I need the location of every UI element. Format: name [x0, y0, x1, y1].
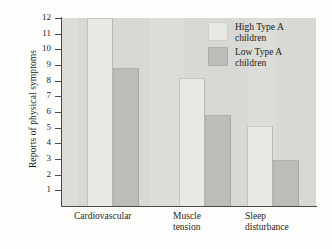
y-axis-tick: [55, 128, 62, 129]
x-axis-line: [61, 206, 317, 207]
y-axis-tick-label: 3: [30, 154, 51, 163]
y-axis-tick: [55, 49, 62, 50]
y-axis-tick-label: 7: [30, 91, 51, 100]
y-axis-tick: [55, 65, 62, 66]
high-type-a-swatch: [208, 22, 228, 41]
bar-chart-figure: Reports of physical symptoms 12345678910…: [0, 0, 332, 249]
legend-item-label: Low Type A children: [235, 47, 282, 68]
bar-low-0: [113, 68, 139, 206]
y-axis-tick: [55, 159, 62, 160]
x-axis-category-label: Sleep disturbance: [245, 211, 289, 233]
y-axis-tick: [55, 112, 62, 113]
y-axis-tick-label: 11: [30, 29, 51, 38]
bar-high-1: [179, 78, 205, 206]
background-wash-band: [62, 18, 78, 206]
y-axis-tick-label: 8: [30, 76, 51, 85]
y-axis-tick: [55, 34, 62, 35]
y-axis-tick: [55, 143, 62, 144]
y-axis-tick: [55, 190, 62, 191]
y-axis-tick-label: 4: [30, 138, 51, 147]
y-axis-tick-label: 6: [30, 107, 51, 116]
y-axis-tick: [55, 18, 62, 19]
legend-item-high-type-a: High Type A children: [208, 22, 284, 43]
bar-low-1: [205, 115, 231, 206]
bar-low-2: [273, 160, 299, 206]
bar-high-0: [87, 18, 113, 206]
y-axis-tick-label: 12: [30, 13, 51, 22]
chart-legend: High Type A children Low Type A children: [208, 22, 284, 73]
y-axis-tick-label: 1: [30, 185, 51, 194]
x-axis-category-label: Muscle tension: [173, 211, 201, 233]
legend-item-low-type-a: Low Type A children: [208, 47, 284, 68]
y-axis-tick-label: 2: [30, 170, 51, 179]
legend-item-label: High Type A children: [235, 22, 284, 43]
y-axis-tick-label: 9: [30, 60, 51, 69]
y-axis-tick-label: 10: [30, 44, 51, 53]
y-axis-tick: [55, 96, 62, 97]
x-axis-category-label: Cardiovascular: [74, 211, 132, 222]
y-axis-tick: [55, 175, 62, 176]
low-type-a-swatch: [208, 47, 228, 66]
bar-high-2: [247, 126, 273, 206]
y-axis-tick-label: 5: [30, 123, 51, 132]
y-axis-tick: [55, 81, 62, 82]
